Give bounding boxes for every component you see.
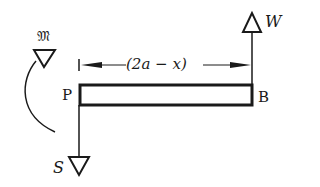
dimension-left-arrow-icon — [81, 62, 102, 68]
s-force-label: S — [53, 160, 64, 176]
moment-label: 𝔐 — [37, 29, 50, 43]
w-force-label: W — [265, 14, 281, 30]
s-force-arrow-icon — [69, 157, 89, 175]
beam — [80, 85, 252, 105]
moment-arc — [25, 61, 55, 132]
w-force-arrow-icon — [243, 13, 261, 32]
beam-right-label: B — [258, 90, 269, 105]
beam-left-label: P — [62, 88, 72, 103]
dimension-right-arrow-icon — [230, 62, 251, 68]
moment-arrow-icon — [34, 50, 55, 67]
dimension-label: (2a − x) — [126, 57, 187, 72]
